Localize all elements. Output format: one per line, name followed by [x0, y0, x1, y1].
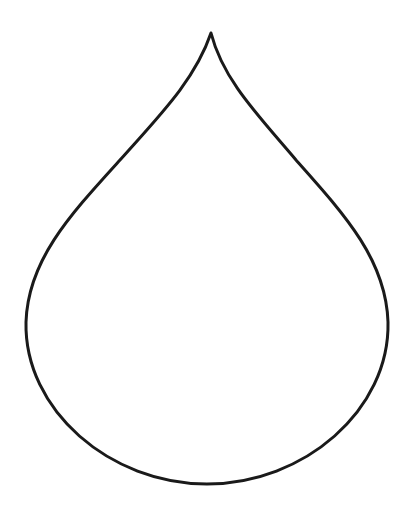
drawing-canvas: Teardrop outline — [0, 0, 416, 505]
teardrop-shape — [0, 0, 416, 505]
